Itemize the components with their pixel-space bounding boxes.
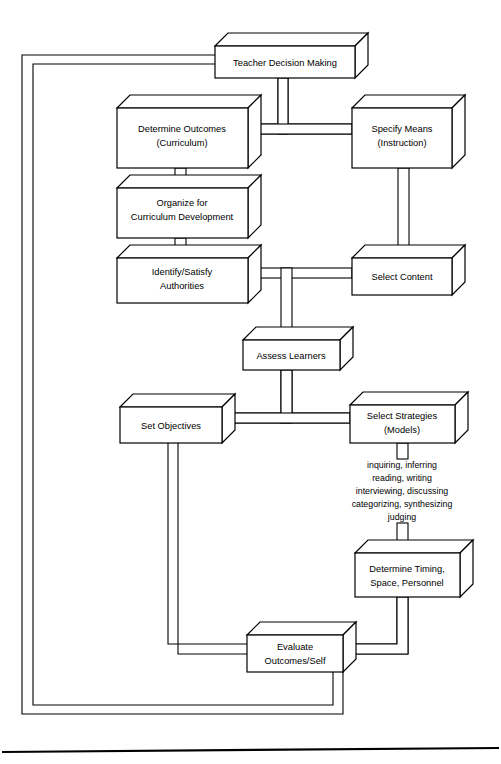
strategy-line-5: judging — [387, 512, 416, 522]
strategy-line-1: inquiring, inferring — [367, 460, 437, 470]
node-label-line1: Organize for — [156, 198, 207, 208]
node-label-line2: (Models) — [384, 425, 420, 435]
node-label: Select Content — [372, 272, 433, 282]
flowchart-svg: Teacher Decision Making Determine Outcom… — [0, 0, 501, 764]
node-label: Teacher Decision Making — [233, 58, 337, 68]
node-teacher-decision-making[interactable]: Teacher Decision Making — [215, 33, 368, 78]
connector-strategies-textlist — [397, 443, 408, 459]
node-label-line1: Evaluate — [277, 642, 313, 652]
feedback-loop-inner — [168, 443, 247, 654]
bottom-divider — [2, 748, 499, 752]
node-label-line1: Specify Means — [372, 124, 433, 134]
node-select-strategies[interactable]: Select Strategies (Models) — [350, 392, 468, 443]
node-label-line2: Authorities — [160, 281, 204, 291]
node-label-line2: (Curriculum) — [156, 138, 207, 148]
strategy-line-2: reading, writing — [372, 473, 432, 483]
strategy-line-3: interviewing, discussing — [356, 486, 449, 496]
node-label-line2: Outcomes/Self — [265, 656, 326, 666]
node-organize-for-curriculum-development[interactable]: Organize for Curriculum Development — [117, 175, 261, 238]
flowchart-diagram: Teacher Decision Making Determine Outcom… — [0, 0, 501, 764]
node-label-line2: (Instruction) — [377, 138, 426, 148]
node-label-line1: Identify/Satisfy — [152, 267, 213, 277]
strategy-text-list: inquiring, inferring reading, writing in… — [352, 460, 453, 522]
node-select-content[interactable]: Select Content — [352, 245, 465, 295]
node-label: Set Objectives — [141, 421, 201, 431]
node-specify-means[interactable]: Specify Means (Instruction) — [352, 95, 465, 168]
node-assess-learners[interactable]: Assess Learners — [243, 327, 353, 370]
connector-outcomes-means — [248, 124, 352, 134]
node-label-line1: Determine Outcomes — [138, 124, 226, 134]
node-identify-satisfy-authorities[interactable]: Identify/Satisfy Authorities — [117, 245, 261, 303]
strategy-line-4: categorizing, synthesizing — [352, 499, 453, 509]
node-label-line1: Determine Timing, — [369, 564, 444, 574]
node-set-objectives[interactable]: Set Objectives — [120, 394, 235, 443]
node-determine-outcomes[interactable]: Determine Outcomes (Curriculum) — [117, 95, 261, 168]
node-label-line2: Curriculum Development — [131, 212, 234, 222]
node-evaluate-outcomes-self[interactable]: Evaluate Outcomes/Self — [247, 622, 356, 672]
node-label-line2: Space, Personnel — [370, 578, 443, 588]
node-label-line1: Select Strategies — [367, 411, 438, 421]
connector-assess-to-row — [222, 370, 350, 423]
node-label: Assess Learners — [256, 351, 326, 361]
node-determine-timing[interactable]: Determine Timing, Space, Personnel — [355, 540, 473, 597]
